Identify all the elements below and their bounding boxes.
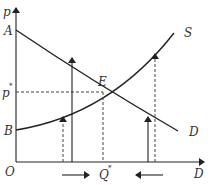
supply-curve-label: S — [184, 26, 192, 40]
equilibrium-quantity-sup: * — [108, 164, 112, 172]
origin-label: O — [5, 165, 15, 179]
demand-start-label: A — [3, 24, 13, 38]
x-axis-label: D — [193, 167, 204, 181]
supply-demand-diagram: p A p * B O E Q * S D D — [0, 0, 212, 185]
equilibrium-price-sup: * — [9, 82, 13, 90]
demand-curve — [16, 30, 178, 131]
y-axis-label: p — [3, 5, 11, 19]
equilibrium-point-label: E — [97, 75, 107, 89]
demand-curve-label: D — [188, 125, 199, 139]
supply-start-label: B — [3, 124, 13, 138]
